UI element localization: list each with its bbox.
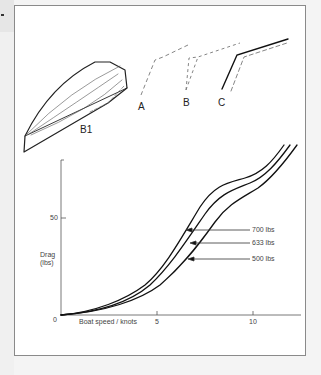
x-tick-5: 5	[155, 318, 159, 325]
y-axis-label-line2: (lbs)	[40, 259, 54, 267]
y-tick-50: 50	[50, 214, 58, 221]
y-tick-0: 0	[53, 316, 57, 323]
annotation-633-lbs: 633 lbs	[252, 239, 275, 246]
section-a	[141, 45, 188, 95]
figure-drawing: B1 A B C 50 0 5 10 Boat speed / knots Dr…	[0, 0, 321, 375]
annotation-500-lbs: 500 lbs	[252, 255, 275, 262]
annotation-700-lbs: 700 lbs	[252, 226, 275, 233]
hull-label-b1: B1	[80, 124, 93, 135]
curve-annotations	[186, 228, 250, 261]
section-label-b: B	[183, 97, 190, 108]
section-label-c: C	[218, 97, 225, 108]
curve-700-lbs	[61, 145, 284, 315]
y-axis-label-line1: Drag	[40, 251, 55, 259]
section-label-a: A	[138, 101, 145, 112]
x-tick-10: 10	[249, 318, 257, 325]
hull-sketch	[24, 62, 127, 152]
x-axis-label: Boat speed / knots	[79, 318, 137, 326]
section-c	[222, 39, 288, 91]
